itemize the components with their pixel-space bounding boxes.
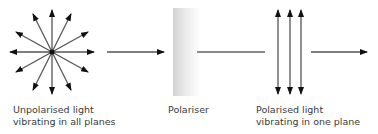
unpolarised-light-label: Unpolarised light vibrating in all plane… [13, 104, 116, 128]
unpolarised-light-star-icon [10, 10, 94, 94]
polariser-filter-icon [173, 8, 201, 96]
unpolarised-label-line2: vibrating in all planes [13, 116, 116, 128]
polarised-label-line1: Polarised light [256, 104, 360, 116]
polarised-light-label: Polarised light vibrating in one plane [256, 104, 360, 128]
polariser-label: Polariser [168, 104, 209, 116]
unpolarised-label-line1: Unpolarised light [13, 104, 116, 116]
polariser-label-text: Polariser [168, 104, 209, 116]
polarised-light-vertical-arrows-icon [278, 10, 301, 94]
polarised-label-line2: vibrating in one plane [256, 116, 360, 128]
